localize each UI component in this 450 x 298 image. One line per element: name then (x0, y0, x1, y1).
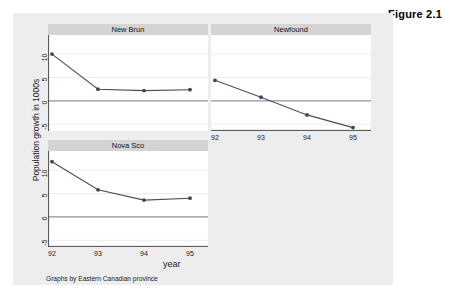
panel-title-new-brun: New Brun (48, 24, 208, 35)
panel-plot-new-brun (48, 35, 208, 131)
xtick-label-92: 92 (205, 134, 225, 141)
ytick-label-10: 10 (41, 170, 48, 184)
data-point (351, 126, 355, 130)
ytick-label-neg5: -5 (41, 124, 48, 138)
data-point (142, 89, 146, 93)
data-point (305, 113, 309, 117)
ytick-label-5: 5 (41, 77, 48, 91)
ytick-label-0: 0 (41, 100, 48, 114)
data-point (50, 52, 54, 56)
xtick-label-95: 95 (180, 250, 200, 257)
data-point (188, 88, 192, 92)
data-point (188, 196, 192, 200)
panel-title-nova-sco: Nova Sco (48, 140, 208, 151)
data-point (213, 78, 217, 82)
xtick-label-93: 93 (88, 250, 108, 257)
data-point (259, 95, 263, 99)
chart-footnote: Graphs by Eastern Canadian province (46, 275, 158, 282)
series-line-nova-sco-visible (52, 162, 190, 200)
ytick-label-5: 5 (41, 193, 48, 207)
figure-label: Figure 2.1 (388, 8, 442, 20)
x-axis-title: year (163, 259, 181, 269)
panel-nova-sco: Nova Sco (48, 140, 208, 247)
series-line-new-brun (52, 54, 190, 91)
xtick-label-94: 94 (297, 134, 317, 141)
panel-plot-newfound (211, 35, 371, 131)
xtick-label-93: 93 (251, 134, 271, 141)
panel-title-newfound: Newfound (211, 24, 371, 35)
y-axis-title: Population growth in 1000s (31, 45, 41, 215)
data-point (142, 198, 146, 202)
data-point (96, 87, 100, 91)
panel-new-brun: New Brun (48, 24, 208, 131)
xtick-label-94: 94 (134, 250, 154, 257)
ytick-label-10: 10 (41, 54, 48, 68)
panel-plot-nova-sco (48, 151, 208, 247)
series-line-newfound (215, 80, 353, 127)
panel-newfound: Newfound 92 93 (211, 24, 371, 131)
ytick-label-0: 0 (41, 216, 48, 230)
data-point (96, 188, 100, 192)
xtick-label-95: 95 (343, 134, 363, 141)
xtick-label-92: 92 (42, 250, 62, 257)
data-point (50, 160, 54, 164)
chart-canvas: Population growth in 1000s New Brun (13, 13, 393, 285)
